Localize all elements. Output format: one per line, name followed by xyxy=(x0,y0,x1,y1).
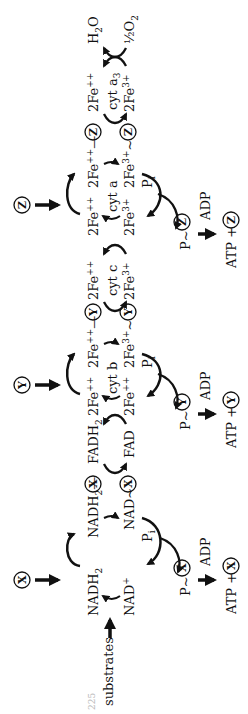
adp-label-x: ADP xyxy=(198,537,213,567)
nad-cycle: NADH2 NAD+ X NADH2— X NAD~ X Pi xyxy=(14,476,239,616)
cyt-a-cycle: Z 2Fe++ 2Fe3+ cyt a 2Fe++— Z 2Fe3+~ Z Pi… xyxy=(14,124,239,269)
cyt-a3-label: cyt a3 xyxy=(105,72,122,110)
cyta-top-arc-icon xyxy=(67,174,80,214)
cyta-fe2-z-label: 2Fe++— xyxy=(85,136,101,188)
half-o2-label: ½O2 xyxy=(122,15,140,44)
z-label: Z xyxy=(225,216,238,224)
cyt-a3-cycle: 2Fe++ cyt a3 2Fe3+ xyxy=(85,57,137,123)
z-factor-label: Z xyxy=(16,201,29,209)
y-factor-label: Y xyxy=(16,381,29,390)
cyta-fe2-left-label: 2Fe++ xyxy=(85,197,101,236)
fad-label: FAD xyxy=(122,430,137,458)
fadh2-to-fad-arrow-icon xyxy=(104,464,126,473)
z-label: Z xyxy=(122,128,135,136)
nad-plus-label: NAD+ xyxy=(121,577,137,616)
x-label: X xyxy=(225,561,238,570)
o2-to-h2o-arrow-icon xyxy=(104,48,126,57)
nadh2-oxidation-arc-icon xyxy=(67,534,80,566)
cytc-fe2-label: 2Fe++ xyxy=(85,261,101,300)
cyta-fe3-z-label: 2Fe3+~ xyxy=(121,140,137,188)
y-label: Y xyxy=(176,398,189,407)
y-label: Y xyxy=(87,308,100,317)
adp-label-z: ADP xyxy=(198,191,213,221)
fadh2-label: FADH2 xyxy=(86,419,104,464)
fad-to-fadh2-arrow-icon xyxy=(104,415,126,424)
substrates-label: substrates xyxy=(101,637,116,706)
atp-plus-x-label: ATP + xyxy=(224,573,239,615)
nadh2-label: NADH2 xyxy=(86,568,104,616)
x-label: X xyxy=(87,479,100,488)
pi-label-z: Pi xyxy=(140,176,157,188)
cyt-c-cycle: 2Fe++ cyt c 2Fe3+ xyxy=(85,245,137,311)
cyt-b-label: cyt b xyxy=(105,362,120,394)
x-factor-label: X xyxy=(16,575,29,584)
cyta-fe3-left-label: 2Fe3+ xyxy=(121,198,137,236)
nad-x-label: NAD~ xyxy=(122,488,137,530)
adp-label-y: ADP xyxy=(198,371,213,401)
oxygen-terminal: H2O ½O2 xyxy=(86,15,140,57)
cyt-b-cycle: Y 2Fe++ 2Fe++ cyt b 2Fe++— Y 2Fe3+~ Y Pi xyxy=(14,304,239,449)
atp-plus-z-label: ATP + xyxy=(224,227,239,269)
nad-to-nadh2-arrow-icon xyxy=(103,596,120,599)
atp-plus-y-label: ATP + xyxy=(224,407,239,449)
cytb-fe2-right-label: 2Fe++ xyxy=(121,377,137,416)
substrates-group: substrates xyxy=(101,620,116,706)
x-label: X xyxy=(176,563,189,572)
nadh2x-to-nadx-arrow-icon xyxy=(104,516,118,518)
p-x-label: P~ xyxy=(178,576,193,596)
z-label: Z xyxy=(176,218,189,226)
cyta3-reduce-arrow-icon xyxy=(104,57,126,66)
cytb-reduce-arrow-icon xyxy=(103,396,120,399)
cytb-top-arc-icon xyxy=(67,354,80,394)
cytb-fe3-y-label: 2Fe3+~ xyxy=(121,320,137,368)
y-label: Y xyxy=(122,308,135,317)
p-z-label: P~ xyxy=(178,230,193,250)
fad-cycle: FADH2 FAD xyxy=(86,415,137,473)
electron-transport-diagram: 225 substrates NADH2 NAD+ X NADH2— X NAD… xyxy=(0,0,248,714)
pi-label-x: Pi xyxy=(140,530,157,542)
cyt-c-label: cyt c xyxy=(105,265,120,296)
pi-label-y: Pi xyxy=(140,356,157,368)
cyta-reduce-arrow-icon xyxy=(103,216,120,219)
z-label: Z xyxy=(87,128,100,136)
cytb-fe2-left-label: 2Fe++ xyxy=(85,377,101,416)
cyt-a-label: cyt a xyxy=(105,180,120,212)
cyta-oxidize-arrow-icon xyxy=(104,162,118,164)
x-label: X xyxy=(122,479,135,488)
cyta3-fe3-label: 2Fe3+ xyxy=(121,74,137,112)
page-number: 225 xyxy=(87,693,97,710)
p-y-label: P~ xyxy=(178,410,193,430)
h2o-label: H2O xyxy=(86,16,104,44)
cyta3-oxidize-arrow-icon xyxy=(104,114,126,123)
cyta3-fe2-label: 2Fe++ xyxy=(85,73,101,112)
cytb-fe2-y-label: 2Fe++— xyxy=(85,316,101,368)
cytb-oxidize-arrow-icon xyxy=(104,342,118,344)
y-label: Y xyxy=(225,396,238,405)
spacer xyxy=(160,368,179,381)
cytc-reduce-arrow-icon xyxy=(104,245,126,254)
cytc-fe3-label: 2Fe3+ xyxy=(121,262,137,300)
